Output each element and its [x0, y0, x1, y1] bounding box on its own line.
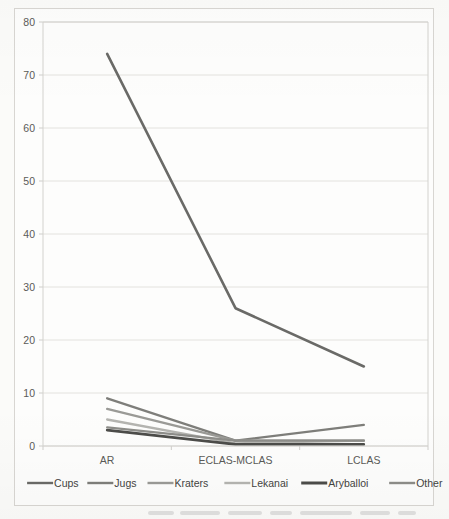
line-chart-svg: 01020304050607080 ARECLAS-MCLASLCLAS Cup…	[0, 0, 449, 519]
chart-legend: CupsJugsKratersLekanaiAryballoiOther	[27, 477, 443, 489]
legend-item-other[interactable]: Other	[389, 477, 443, 489]
x-axis-labels-group: ARECLAS-MCLASLCLAS	[100, 454, 381, 466]
x-axis-tick-label: ECLAS-MCLAS	[198, 454, 272, 466]
y-axis-tick-label: 70	[23, 69, 35, 81]
y-axis-tick-label: 60	[23, 122, 35, 134]
legend-label: Jugs	[114, 477, 136, 489]
legend-item-cups[interactable]: Cups	[27, 477, 79, 489]
y-axis-labels-group: 01020304050607080	[23, 16, 35, 452]
legend-label: Kraters	[175, 477, 209, 489]
y-axis-tick-label: 30	[23, 281, 35, 293]
legend-label: Cups	[54, 477, 79, 489]
legend-label: Aryballoi	[328, 477, 368, 489]
scanned-page: 01020304050607080 ARECLAS-MCLASLCLAS Cup…	[0, 0, 449, 519]
y-tick-marks-group	[39, 22, 43, 446]
y-axis-tick-label: 80	[23, 16, 35, 28]
gridlines-group	[43, 22, 428, 446]
y-axis-tick-label: 50	[23, 175, 35, 187]
x-axis-tick-label: LCLAS	[347, 454, 380, 466]
legend-label: Other	[416, 477, 443, 489]
legend-label: Lekanai	[251, 477, 288, 489]
caption-smudge-strip	[0, 506, 449, 519]
data-series-group	[107, 54, 364, 445]
y-axis-tick-label: 40	[23, 228, 35, 240]
legend-item-lekanai[interactable]: Lekanai	[224, 477, 288, 489]
y-axis-tick-label: 10	[23, 387, 35, 399]
series-line-kraters	[107, 409, 364, 441]
y-axis-tick-label: 0	[29, 440, 35, 452]
legend-item-kraters[interactable]: Kraters	[148, 477, 209, 489]
x-tick-marks-group	[43, 446, 428, 450]
series-line-cups	[107, 54, 364, 367]
legend-item-jugs[interactable]: Jugs	[87, 477, 136, 489]
chart-figure: 01020304050607080 ARECLAS-MCLASLCLAS Cup…	[0, 0, 449, 519]
legend-item-aryballoi[interactable]: Aryballoi	[301, 477, 368, 489]
x-axis-tick-label: AR	[100, 454, 115, 466]
y-axis-tick-label: 20	[23, 334, 35, 346]
